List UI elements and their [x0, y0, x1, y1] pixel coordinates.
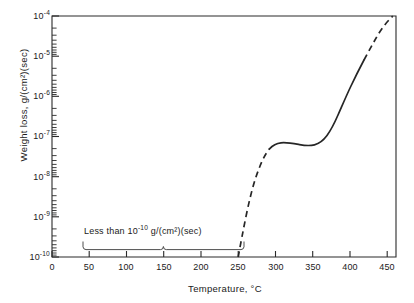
x-axis-ticks	[52, 251, 387, 257]
xtick-label-250: 250	[224, 262, 252, 272]
y-axis-title: Weight loss, g/(cm²)(sec)	[18, 49, 29, 162]
xtick-label-400: 400	[336, 262, 364, 272]
xtick-label-450: 450	[373, 262, 401, 272]
xtick-label-350: 350	[299, 262, 327, 272]
y-axis-ticks	[52, 16, 59, 257]
chart-figure: 10-4 10-5 10-6 10-7 10-8 10-9 10-10 0 50…	[0, 0, 414, 303]
curve-segment-upper-dashed	[364, 16, 393, 60]
ytick-label-1e-4: 10-4	[16, 11, 50, 21]
annotation-exponent: -10	[138, 224, 148, 231]
xtick-label-200: 200	[187, 262, 215, 272]
ytick-label-1e-10: 10-10	[10, 252, 50, 262]
xtick-label-100: 100	[112, 262, 140, 272]
ytick-label-1e-8: 10-8	[16, 172, 50, 182]
xtick-label-300: 300	[262, 262, 290, 272]
plot-frame	[52, 16, 396, 257]
plot-canvas	[0, 0, 414, 303]
curve-segment-lower-dashed	[238, 149, 269, 257]
less-than-annotation-label: Less than 10-10 g/(cm²)(sec)	[84, 226, 202, 236]
xtick-label-0: 0	[38, 262, 66, 272]
xtick-label-150: 150	[150, 262, 178, 272]
ytick-label-1e-9: 10-9	[16, 212, 50, 222]
x-axis-title: Temperature, °C	[160, 283, 290, 294]
less-than-bracket	[83, 242, 244, 250]
annotation-prefix: Less than 10	[84, 226, 138, 236]
curve-segment-solid	[270, 60, 365, 149]
xtick-label-50: 50	[75, 262, 103, 272]
annotation-suffix: g/(cm²)(sec)	[148, 226, 202, 236]
y-axis-title-wrapper: Weight loss, g/(cm²)(sec)	[13, 40, 31, 170]
